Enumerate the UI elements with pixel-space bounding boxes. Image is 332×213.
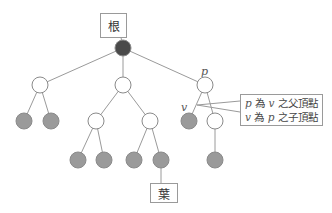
leaf-label: 葉 — [150, 183, 178, 203]
root-node — [115, 40, 131, 56]
tree-nodes — [16, 40, 223, 168]
leaf-node — [126, 152, 142, 168]
child-node-v — [181, 113, 197, 129]
root-label: 根 — [100, 13, 127, 38]
leaf-node — [16, 113, 32, 129]
leaf-node — [70, 152, 86, 168]
leaf-node — [96, 152, 112, 168]
leaf-node — [207, 152, 223, 168]
internal-node — [32, 77, 48, 93]
p-variable-label: p — [201, 65, 208, 78]
v-variable-label: v — [181, 101, 187, 114]
parent-node-p — [197, 77, 213, 93]
internal-node — [142, 113, 158, 129]
callout-line-1: p 為 v 之父頂點 — [245, 96, 318, 110]
parent-child-callout: p 為 v 之父頂點 v 為 p 之子頂點 — [240, 94, 323, 126]
internal-node — [207, 113, 223, 129]
leaf-node — [153, 152, 169, 168]
internal-node — [115, 77, 131, 93]
callout-line-2: v 為 p 之子頂點 — [245, 110, 318, 124]
leaf-node — [43, 113, 59, 129]
internal-node — [88, 113, 104, 129]
